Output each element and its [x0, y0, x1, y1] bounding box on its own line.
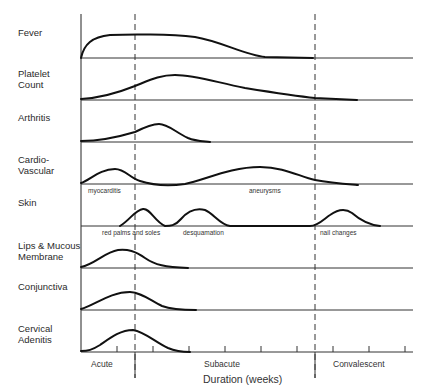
fever-curve: [81, 34, 313, 58]
x-axis-label: Duration (weeks): [203, 373, 282, 385]
platelet-label-line1: Platelet: [18, 68, 50, 79]
row-label-platelet-count: Platelet Count: [18, 68, 50, 90]
phase-subacute: Subacute: [204, 359, 240, 369]
row-label-lips-mucous: Lips & Mucous Membrane: [18, 240, 80, 262]
arthritis-curve: [81, 124, 210, 142]
lips-label-line1: Lips & Mucous: [18, 240, 80, 251]
conjunctiva-curve: [81, 292, 196, 310]
note-nail-changes: nail changes: [320, 229, 357, 236]
note-red-palms: red palms and soles: [102, 229, 160, 236]
phase-acute: Acute: [91, 359, 113, 369]
row-label-arthritis: Arthritis: [18, 112, 50, 123]
cardio-label-line1: Cardio-: [18, 154, 54, 165]
phase-convalescent: Convalescent: [333, 359, 385, 369]
row-label-skin: Skin: [18, 197, 36, 208]
platelet-label-line2: Count: [18, 79, 50, 90]
timeline-chart: [0, 0, 421, 387]
row-label-cervical-adenitis: Cervical Adenitis: [18, 323, 52, 345]
row-label-cardio-vascular: Cardio- Vascular: [18, 154, 54, 176]
cardiovascular-curve: [81, 167, 358, 185]
x-axis-ticks: [117, 346, 405, 352]
cervical-label-line2: Adenitis: [18, 334, 52, 345]
lips-label-line2: Membrane: [18, 251, 80, 262]
note-aneurysms: aneurysms: [249, 187, 281, 194]
skin-curve: [120, 209, 380, 226]
row-label-fever: Fever: [18, 27, 42, 38]
note-desquamation: desquamation: [183, 229, 224, 236]
platelet-count-curve: [81, 75, 357, 100]
cervical-label-line1: Cervical: [18, 323, 52, 334]
note-myocarditis: myocarditis: [88, 187, 121, 194]
row-baselines: [81, 58, 413, 352]
cardio-label-line2: Vascular: [18, 165, 54, 176]
row-label-conjunctiva: Conjunctiva: [18, 281, 68, 292]
